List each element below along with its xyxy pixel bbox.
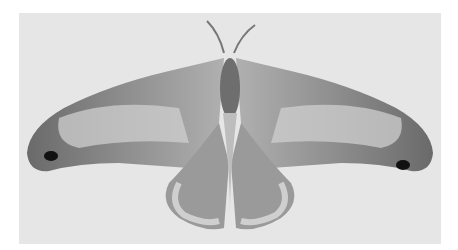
moth-photograph bbox=[19, 13, 441, 244]
right-eyespot bbox=[396, 160, 410, 170]
moth-illustration bbox=[19, 13, 441, 244]
left-eyespot bbox=[44, 151, 58, 161]
antenna-left bbox=[207, 21, 224, 53]
antenna-right bbox=[234, 25, 255, 53]
thorax bbox=[220, 58, 240, 118]
